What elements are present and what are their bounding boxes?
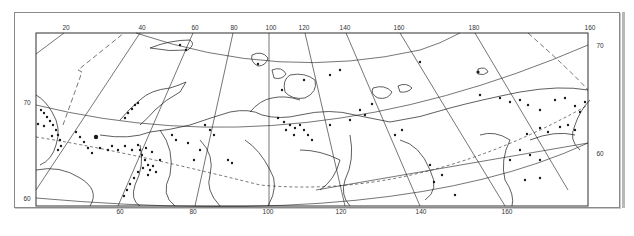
lon-label-top: 60 bbox=[191, 24, 199, 31]
lon-label-bottom: 80 bbox=[189, 208, 197, 215]
lon-label-bottom: 160 bbox=[502, 208, 513, 215]
lon-label-top: 160 bbox=[585, 24, 596, 31]
lat-label-right: 60 bbox=[596, 150, 604, 157]
lon-label-bottom: 140 bbox=[416, 208, 427, 215]
map-canvas: 20 40 60 80 100 120 140 160 180 160 60 8… bbox=[0, 0, 634, 236]
lat-label-right: 70 bbox=[596, 42, 604, 49]
lon-label-top: 140 bbox=[340, 24, 351, 31]
lon-label-top: 20 bbox=[62, 24, 70, 31]
lon-label-bottom: 60 bbox=[116, 208, 124, 215]
lon-label-top: 160 bbox=[394, 24, 405, 31]
lon-label-top: 100 bbox=[266, 24, 277, 31]
lat-label-left: 60 bbox=[23, 195, 31, 202]
lon-label-top: 40 bbox=[138, 24, 146, 31]
lon-label-top: 180 bbox=[469, 24, 480, 31]
lon-label-top: 120 bbox=[299, 24, 310, 31]
lat-label-left: 70 bbox=[23, 99, 31, 106]
lon-label-bottom: 100 bbox=[263, 208, 274, 215]
lon-label-top: 80 bbox=[230, 24, 238, 31]
lon-label-bottom: 120 bbox=[336, 208, 347, 215]
dashed-parallels bbox=[36, 33, 588, 187]
